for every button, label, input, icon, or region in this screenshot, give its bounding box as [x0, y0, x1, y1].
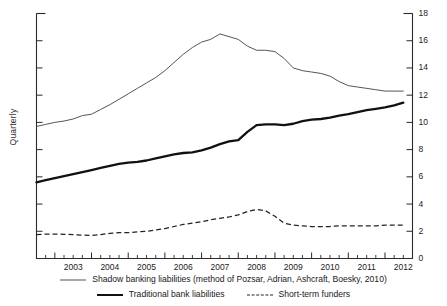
y-tick-label: 2 — [419, 226, 439, 236]
x-tick-label: 2010 — [310, 262, 350, 272]
x-tick-label: 2012 — [383, 262, 423, 272]
x-tick-label: 2005 — [127, 262, 167, 272]
x-tick-label: 2004 — [90, 262, 130, 272]
legend-item[interactable]: Short-term funders — [247, 290, 351, 299]
y-tick-label: 8 — [419, 144, 439, 154]
chart-plot-area — [0, 0, 447, 306]
legend-label: Shadow banking liabilities (method of Po… — [92, 275, 387, 284]
legend-item[interactable]: Traditional bank liabilities — [97, 290, 225, 299]
y-tick-label: 10 — [419, 117, 439, 127]
legend-item[interactable]: Shadow banking liabilities (method of Po… — [60, 275, 387, 284]
y-tick-label: 4 — [419, 199, 439, 209]
x-tick-label: 2007 — [200, 262, 240, 272]
legend-row-2: Traditional bank liabilitiesShort-term f… — [0, 287, 447, 302]
x-tick-label: 2006 — [163, 262, 203, 272]
x-tick-label: 2003 — [53, 262, 93, 272]
legend-swatch-icon — [97, 291, 123, 299]
y-tick-label: 16 — [419, 35, 439, 45]
series-line-3 — [37, 210, 404, 236]
x-tick-label: 2011 — [347, 262, 387, 272]
y-tick-label: 14 — [419, 62, 439, 72]
chart-figure: Quarterly 024681012141618 20032004200520… — [0, 0, 447, 306]
x-tick-label: 2008 — [237, 262, 277, 272]
legend-row-1: Shadow banking liabilities (method of Po… — [0, 272, 447, 287]
legend-label: Traditional bank liabilities — [129, 290, 225, 299]
chart-axes — [37, 14, 413, 259]
y-tick-label: 18 — [419, 8, 439, 18]
axis-spines — [37, 14, 413, 259]
legend-label: Short-term funders — [279, 290, 351, 299]
x-tick-label: 2009 — [273, 262, 313, 272]
chart-legend: Shadow banking liabilities (method of Po… — [0, 272, 447, 302]
series-line-1 — [37, 34, 404, 127]
legend-swatch-icon — [60, 276, 86, 284]
y-tick-label: 6 — [419, 171, 439, 181]
legend-swatch-icon — [247, 291, 273, 299]
y-tick-label: 12 — [419, 90, 439, 100]
chart-series-layer — [37, 34, 404, 235]
